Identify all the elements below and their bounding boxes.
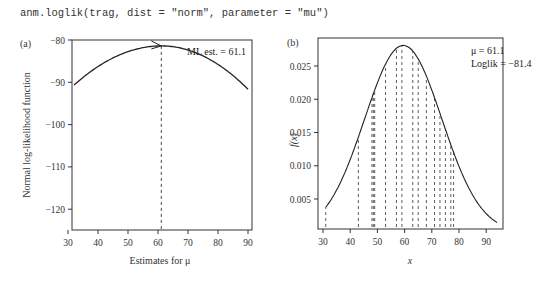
panel-label-b: (b) [287, 37, 299, 49]
x-tick-label: 50 [123, 238, 133, 248]
y-tick-label: 0.010 [290, 161, 312, 171]
ml-estimate-annotation: ML est. = 61.1 [187, 46, 246, 57]
plot-frame [72, 40, 252, 230]
y-tick-label: −80 [50, 36, 65, 46]
panel-a-loglikelihood-plot: −80−90−100−110−12030405060708090ML est. … [20, 36, 253, 267]
y-tick-label: −100 [45, 120, 65, 130]
y-axis-title: f(x) [288, 132, 300, 147]
loglik-annotation: Loglik = −81.4 [471, 58, 531, 69]
y-tick-label: 0.020 [290, 95, 312, 105]
figure: −80−90−100−110−12030405060708090ML est. … [0, 0, 555, 285]
y-axis-title: Normal log-likelihood function [21, 72, 32, 198]
x-tick-label: 30 [63, 238, 73, 248]
x-tick-label: 80 [213, 238, 223, 248]
arrow-icon [151, 41, 161, 49]
x-tick-label: 60 [400, 237, 410, 247]
mu-annotation: μ = 61.1 [471, 45, 505, 56]
y-tick-label: −110 [46, 162, 66, 172]
x-tick-label: 30 [318, 237, 328, 247]
x-tick-label: 70 [427, 237, 437, 247]
y-tick-label: 0.005 [290, 195, 312, 205]
panel-label-a: (a) [20, 38, 31, 50]
x-tick-label: 70 [183, 238, 193, 248]
y-tick-label: 0.025 [290, 62, 312, 72]
y-tick-label: −120 [45, 205, 65, 215]
x-axis-title: Estimates for μ [130, 255, 191, 266]
x-tick-label: 40 [93, 238, 103, 248]
x-tick-label: 80 [454, 237, 464, 247]
x-tick-label: 50 [373, 237, 383, 247]
panel-b-density-plot: 0.0050.0100.0150.0200.02530405060708090μ… [287, 37, 531, 266]
x-tick-label: 90 [481, 237, 491, 247]
x-axis-title: x [407, 255, 413, 266]
y-tick-label: −90 [50, 78, 65, 88]
x-tick-label: 60 [153, 238, 163, 248]
x-tick-label: 90 [243, 238, 253, 248]
density-curve [326, 45, 497, 222]
x-tick-label: 40 [345, 237, 355, 247]
